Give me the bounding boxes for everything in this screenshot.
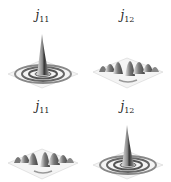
panel-j11-top: j11 [0, 0, 85, 91]
surface-plot-central-peak [85, 113, 170, 182]
panel-j11-bottom: j11 [0, 91, 85, 182]
surface-plot-multi-lobe [85, 22, 170, 91]
panel-j12-top: j12 [85, 0, 170, 91]
surface-plot-central-peak [0, 22, 85, 91]
surface-plot-multi-lobe [0, 113, 85, 182]
panel-j12-bottom: j12 [85, 91, 170, 182]
